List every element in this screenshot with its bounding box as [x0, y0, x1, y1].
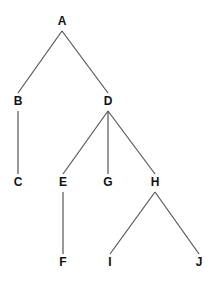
node-f: F	[59, 255, 66, 269]
node-j: J	[196, 255, 203, 269]
node-g: G	[103, 175, 112, 189]
edge-h-j	[155, 192, 199, 254]
edge-a-d	[62, 31, 108, 93]
node-e: E	[59, 175, 67, 189]
edge-h-i	[110, 192, 155, 254]
node-h: H	[151, 175, 160, 189]
edge-d-e	[63, 111, 108, 174]
node-c: C	[14, 175, 23, 189]
edge-d-h	[108, 111, 155, 174]
tree-edges	[18, 31, 199, 254]
node-a: A	[58, 14, 67, 28]
node-d: D	[104, 94, 113, 108]
node-i: I	[108, 255, 111, 269]
edge-a-b	[18, 31, 62, 93]
tree-diagram: ABDCEGHFIJ	[0, 0, 220, 283]
node-b: B	[14, 94, 23, 108]
